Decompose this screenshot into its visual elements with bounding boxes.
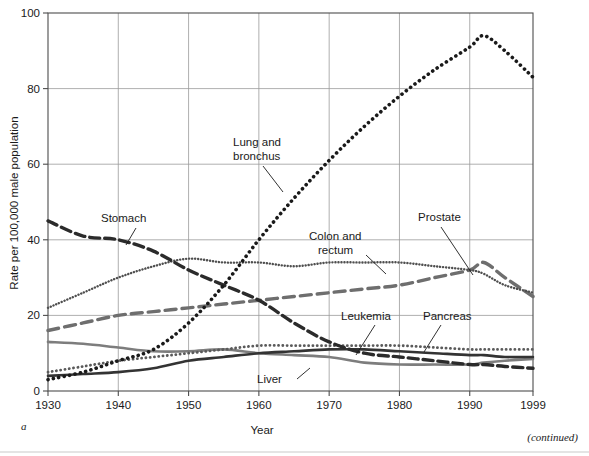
y-tick-label: 100 [21,7,40,19]
annotation-leukemia-label: Leukemia [341,310,391,322]
x-tick-label: 1999 [520,399,546,411]
y-tick-label: 0 [34,385,40,397]
x-tick-label: 1960 [246,399,272,411]
annotation-liver-label: Liver [257,373,282,385]
mortality-rate-line-chart: 020406080100 193019401950196019701980199… [0,0,589,456]
x-tick-label: 1970 [316,399,342,411]
x-tick-label: 1980 [387,399,413,411]
figure-panel: 020406080100 193019401950196019701980199… [0,0,589,456]
y-axis-title: Rate per 100,000 male population [8,116,20,289]
figure-background [0,0,589,456]
x-tick-label: 1990 [457,399,483,411]
y-tick-label: 40 [27,234,40,246]
continued-note: (continued) [527,431,578,444]
x-tick-label: 1930 [35,399,61,411]
y-tick-label: 20 [27,309,40,321]
panel-letter: a [21,420,27,432]
annotation-stomach-label: Stomach [101,212,146,224]
annotation-lung-label-line1: Lung and [233,136,281,148]
y-tick-label: 60 [27,158,40,170]
x-tick-label: 1940 [105,399,131,411]
annotation-pancreas-label: Pancreas [423,310,472,322]
x-axis-title: Year [250,424,273,436]
annotation-prostate-label: Prostate [418,211,461,223]
y-tick-label: 80 [27,83,40,95]
x-tick-label: 1950 [176,399,202,411]
annotation-lung-label-line2: bronchus [233,150,281,162]
annotation-colon-label-line1: Colon and [309,230,361,242]
annotation-colon-label-line2: rectum [318,244,353,256]
